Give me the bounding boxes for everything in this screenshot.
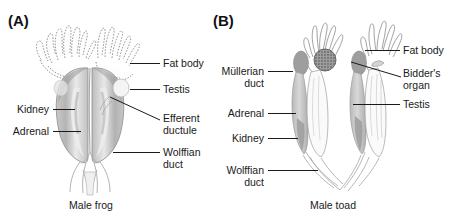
label-toad-testis: Testis [403,98,430,110]
label-toad-bidders-organ-line2: organ [403,79,430,91]
leader-toad-adrenal [268,113,296,114]
label-toad-bidders-organ-line1: Bidder's [403,67,441,79]
label-frog-fat-body: Fat body [163,57,204,69]
toad-right-organ [340,21,402,191]
leader-toad-bidders-organ [349,60,403,80]
anatomy-figure: (A) (B) Fat body Testis Efferent ductule… [0,0,459,224]
label-toad-mullerian-duct-line2: duct [208,77,264,89]
toad-left-bidders-organ [314,49,336,71]
frog-left-kidney [56,68,88,163]
leader-frog-fat-body [130,63,160,64]
label-toad-mullerian-duct-line1: Müllerian [208,65,264,77]
leader-frog-testis [130,89,160,90]
label-frog-testis: Testis [163,83,190,95]
leader-toad-kidney [268,138,298,139]
leader-toad-testis [353,104,400,105]
label-frog-efferent-ductule-line2: ductule [163,124,197,136]
toad-right-kidney [350,72,366,154]
label-frog-adrenal: Adrenal [0,125,49,137]
panel-b-letter: (B) [213,12,234,29]
leader-toad-wolffian-duct [268,170,318,171]
label-toad-wolffian-duct-line2: duct [208,176,264,188]
label-frog-efferent-ductule-line1: Efferent [163,112,200,124]
leader-toad-mullerian-duct [268,71,293,72]
leader-frog-adrenal [53,131,81,132]
label-toad-adrenal: Adrenal [208,107,264,119]
leader-frog-wolffian-duct [113,152,160,153]
caption-male-toad: Male toad [292,199,374,211]
toad-right-testis [365,68,386,157]
toad-left-adrenal [294,51,309,75]
label-toad-wolffian-duct-line1: Wolffian [208,164,264,176]
leader-frog-efferent-ductule [108,95,162,123]
toad-left-testis [307,70,328,157]
label-frog-wolffian-duct-line2: duct [163,158,183,170]
label-frog-kidney: Kidney [4,103,49,115]
leader-toad-fat-body [365,50,400,51]
label-frog-wolffian-duct-line1: Wolffian [163,146,201,158]
frog-left-adrenal [71,88,84,157]
toad-drawing [292,21,402,191]
label-toad-kidney: Kidney [208,132,264,144]
label-toad-fat-body: Fat body [403,44,444,56]
leader-frog-kidney [53,109,75,110]
caption-male-frog: Male frog [53,199,129,211]
panel-a-letter: (A) [8,12,29,29]
frog-wolffian-duct [84,172,96,195]
toad-left-organ [292,23,343,190]
